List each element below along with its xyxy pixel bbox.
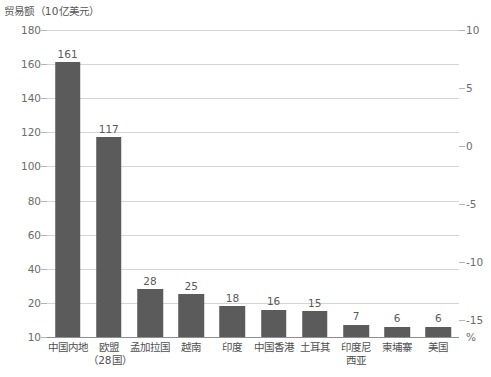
x-axis-category-line: 土耳其 <box>300 341 330 353</box>
chart-title: 贸易额（10亿美元） <box>4 3 99 18</box>
bar[interactable] <box>96 137 122 336</box>
y-axis-right-tick-mark <box>459 30 465 31</box>
x-axis-category-label: 印度尼西亚 <box>335 341 376 367</box>
y-axis-left-tick-mark <box>41 132 47 133</box>
y-axis-right: 1050-5-10-15 <box>466 30 491 337</box>
x-axis-category-line: （28国） <box>88 354 129 367</box>
x-axis-category-line: 柬埔寨 <box>382 341 412 353</box>
y-axis-left-tick-label: 40 <box>28 264 41 275</box>
y-axis-right-tick-mark <box>459 204 465 205</box>
percent-unit-label: % <box>466 331 476 343</box>
x-axis-category-label: 柬埔寨 <box>377 341 418 354</box>
x-axis-category-line: 欧盟 <box>99 341 119 353</box>
x-axis-category-line: 西亚 <box>335 354 376 367</box>
bar-chart: 贸易额（10亿美元） 1801601401201008060402010 105… <box>0 0 491 377</box>
x-axis-category-line: 孟加拉国 <box>130 341 170 353</box>
bar[interactable] <box>261 310 287 337</box>
y-axis-left-tick-mark <box>41 64 47 65</box>
bar[interactable] <box>55 62 81 336</box>
x-axis-category-label: 中国内地 <box>47 341 88 354</box>
x-axis-category-line: 印度 <box>222 341 242 353</box>
y-axis-left-tick-mark <box>41 98 47 99</box>
bar-value-label: 15 <box>308 298 321 309</box>
bar-value-label: 6 <box>394 313 401 324</box>
y-axis-left-tick-label: 10 <box>28 332 41 343</box>
y-axis-left-tick-mark <box>41 201 47 202</box>
bar[interactable] <box>426 327 452 337</box>
bar-value-label: 25 <box>185 281 198 292</box>
x-axis-category-line: 印度尼 <box>341 341 371 353</box>
y-axis-left-tick-label: 140 <box>21 93 41 104</box>
bar[interactable] <box>178 294 204 337</box>
bar-value-label: 16 <box>267 296 280 307</box>
y-axis-left-tick-label: 60 <box>28 230 41 241</box>
bar[interactable] <box>137 289 163 337</box>
x-axis-category-label: 越南 <box>171 341 212 354</box>
bar-slot: 7 <box>335 30 376 337</box>
y-axis-left-tick-mark <box>41 235 47 236</box>
x-axis-category-label: 欧盟（28国） <box>88 341 129 367</box>
bar[interactable] <box>343 325 369 337</box>
bar-value-label: 7 <box>353 311 360 322</box>
x-axis-category-line: 中国香港 <box>254 341 294 353</box>
bar-slot: 25 <box>171 30 212 337</box>
y-axis-right-tick-label: -15 <box>466 315 483 326</box>
bars-layer: 1611172825181615766 <box>47 30 459 337</box>
bar-value-label: 28 <box>143 276 156 287</box>
bar-slot: 28 <box>129 30 170 337</box>
y-axis-left-tick-mark <box>41 30 47 31</box>
y-axis-left-tick-label: 120 <box>21 127 41 138</box>
bar[interactable] <box>220 306 246 337</box>
x-axis-category-line: 中国内地 <box>48 341 88 353</box>
y-axis-left: 1801601401201008060402010 <box>0 30 41 337</box>
bar-value-label: 117 <box>99 124 119 135</box>
y-axis-left-tick-mark <box>41 269 47 270</box>
bar-slot: 161 <box>47 30 88 337</box>
y-axis-right-tick-label: -5 <box>466 199 476 210</box>
bar-slot: 6 <box>418 30 459 337</box>
y-axis-left-tick-label: 160 <box>21 59 41 70</box>
bar-slot: 15 <box>294 30 335 337</box>
y-axis-right-tick-label: 0 <box>466 141 473 152</box>
y-axis-left-tick-label: 100 <box>21 161 41 172</box>
y-axis-right-tick-mark <box>459 320 465 321</box>
y-axis-right-tick-label: 5 <box>466 83 473 94</box>
y-axis-right-tick-label: -10 <box>466 257 483 268</box>
x-axis-category-line: 越南 <box>181 341 201 353</box>
x-axis-category-label: 美国 <box>418 341 459 354</box>
bar-value-label: 6 <box>435 313 442 324</box>
x-axis-categories: 中国内地欧盟（28国）孟加拉国越南印度中国香港土耳其印度尼西亚柬埔寨美国 <box>47 341 459 377</box>
x-axis-category-label: 土耳其 <box>294 341 335 354</box>
bar[interactable] <box>302 311 328 336</box>
bar[interactable] <box>384 327 410 337</box>
x-axis-category-label: 中国香港 <box>253 341 294 354</box>
x-axis-category-label: 孟加拉国 <box>129 341 170 354</box>
y-axis-left-tick-mark <box>41 303 47 304</box>
y-axis-left-tick-label: 20 <box>28 298 41 309</box>
y-axis-right-tick-label: 10 <box>466 25 479 36</box>
y-axis-left-tick-label: 80 <box>28 196 41 207</box>
y-axis-left-tick-label: 180 <box>21 25 41 36</box>
x-axis-category-label: 印度 <box>212 341 253 354</box>
bar-value-label: 161 <box>58 49 78 60</box>
y-axis-left-tick-mark <box>41 337 47 338</box>
y-axis-right-tick-mark <box>459 146 465 147</box>
bar-value-label: 18 <box>226 293 239 304</box>
bar-slot: 6 <box>377 30 418 337</box>
y-axis-left-tick-mark <box>41 166 47 167</box>
y-axis-right-tick-mark <box>459 88 465 89</box>
bar-slot: 18 <box>212 30 253 337</box>
x-axis-category-line: 美国 <box>428 341 448 353</box>
bar-slot: 16 <box>253 30 294 337</box>
y-axis-right-tick-mark <box>459 262 465 263</box>
bar-slot: 117 <box>88 30 129 337</box>
